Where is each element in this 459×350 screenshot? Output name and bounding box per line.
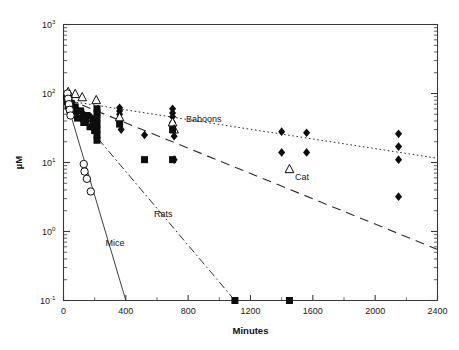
data-point [395, 142, 402, 151]
data-points [63, 87, 402, 304]
series-baboons [63, 90, 402, 201]
axis-tick-labels: 0400800120016002000240010-1100101102103 [40, 18, 448, 316]
data-point [81, 168, 88, 175]
data-point [87, 188, 94, 195]
data-point [141, 156, 148, 163]
annotation-rats: Rats [154, 209, 173, 219]
data-point [395, 130, 402, 139]
x-tick-label: 1200 [240, 306, 260, 316]
data-point [231, 297, 238, 304]
y-axis-title: µM [13, 156, 24, 169]
data-point [92, 95, 101, 103]
data-point [67, 112, 74, 119]
data-point [395, 155, 402, 164]
x-tick-label: 400 [118, 306, 133, 316]
semilog-scatter-plot: 0400800120016002000240010-1100101102103 … [0, 0, 459, 350]
data-point [168, 118, 177, 126]
data-point [285, 164, 294, 172]
data-point [169, 126, 176, 133]
plot-frame [64, 25, 438, 301]
data-point [77, 107, 84, 114]
data-point [141, 131, 148, 140]
data-point [116, 121, 123, 128]
chart-figure: 0400800120016002000240010-1100101102103 … [0, 0, 459, 350]
data-point [80, 160, 87, 167]
data-point [303, 128, 310, 137]
y-tick-label: 100 [42, 225, 56, 237]
x-tick-label: 2000 [365, 306, 385, 316]
data-point [278, 148, 285, 157]
fit-line-cat [68, 99, 437, 249]
x-tick-label: 2400 [427, 306, 447, 316]
data-point [74, 115, 81, 122]
annotation-baboons: Baboons [186, 114, 222, 124]
data-point [169, 156, 176, 163]
y-tick-label: 103 [42, 18, 56, 30]
y-tick-label: 102 [42, 87, 56, 99]
axis-titles: MinutesµM [13, 156, 268, 336]
data-point [303, 148, 310, 157]
annotation-mice: Mice [105, 238, 124, 248]
curve-annotations: BaboonsCatRatsMice [105, 114, 309, 247]
series-rats [63, 92, 293, 304]
data-point [83, 112, 90, 119]
data-point [80, 119, 87, 126]
x-axis-title: Minutes [233, 325, 269, 336]
annotation-cat: Cat [295, 172, 310, 182]
y-tick-label: 101 [42, 156, 56, 168]
y-tick-label: 10-1 [40, 294, 56, 306]
data-point [94, 137, 101, 144]
data-point [83, 175, 90, 182]
axis-ticks [64, 25, 438, 301]
x-tick-label: 800 [181, 306, 196, 316]
data-point [395, 192, 402, 201]
x-tick-label: 1600 [303, 306, 323, 316]
data-point [94, 115, 101, 122]
data-point [286, 297, 293, 304]
x-tick-label: 0 [61, 306, 66, 316]
